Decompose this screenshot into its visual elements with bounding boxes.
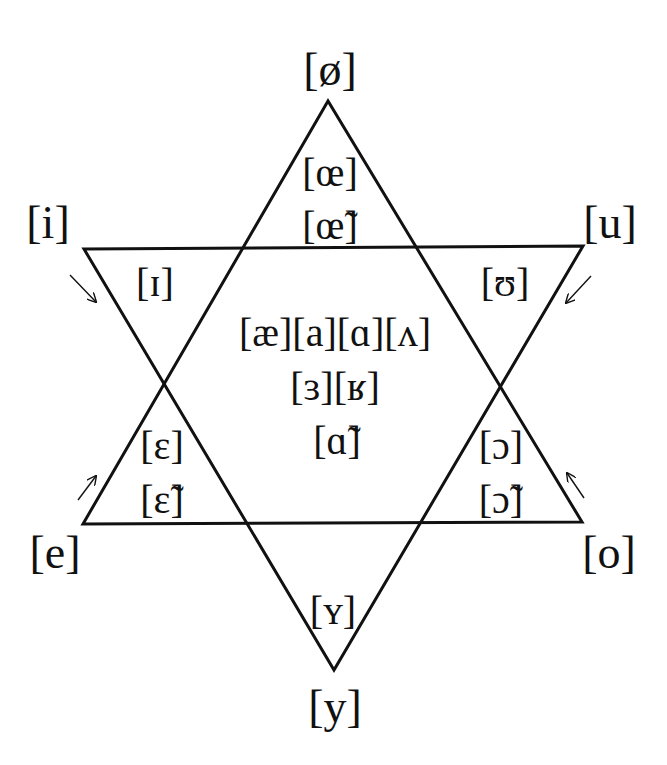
inner-label-upper-left: [ɪ] <box>136 263 174 303</box>
arrow-icon <box>70 275 96 302</box>
inner-label-center-2: [ɜ][ʁ] <box>290 367 380 407</box>
vertex-label-top: [ø] <box>303 47 357 93</box>
arrow-icon <box>78 476 96 500</box>
inner-label-top-2: [œ̃] <box>302 206 358 246</box>
arrow-icon <box>566 276 591 303</box>
vertex-label-bottom-left: [e] <box>29 530 80 576</box>
inner-label-lower-left-1: [ɛ] <box>140 426 183 466</box>
inner-label-lower-left-2: [ɛ̃] <box>140 480 183 520</box>
vertex-label-top-left: [i] <box>26 200 69 246</box>
inner-label-center-1: [æ][a][ɑ][ʌ] <box>239 313 431 353</box>
inner-label-bottom: [ʏ] <box>310 591 356 631</box>
inner-label-center-3: [ɑ̃] <box>313 421 361 461</box>
inner-label-lower-right-2: [ɔ̃] <box>479 480 523 520</box>
inner-label-top-1: [œ] <box>302 153 358 193</box>
vertex-label-bottom-right: [o] <box>582 530 636 576</box>
arrow-icon <box>567 473 584 498</box>
inner-label-upper-right: [ʊ] <box>481 263 530 303</box>
vertex-label-bottom: [y] <box>308 684 362 730</box>
inner-label-lower-right-1: [ɔ] <box>479 426 523 466</box>
vertex-label-top-right: [u] <box>583 200 637 246</box>
